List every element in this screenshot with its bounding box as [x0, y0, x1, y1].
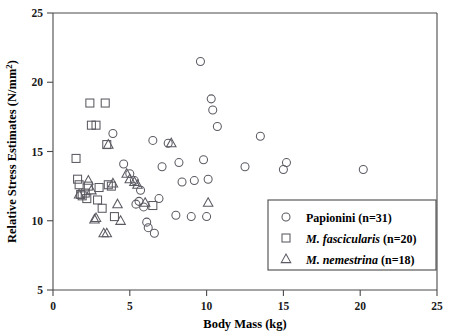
data-point-circle [203, 213, 211, 221]
data-point-square [86, 99, 94, 107]
data-point-circle [140, 203, 148, 211]
data-point-circle [158, 163, 166, 171]
data-point-circle [359, 166, 367, 174]
data-point-circle [207, 95, 215, 103]
data-point-circle [178, 178, 186, 186]
data-point-circle [109, 129, 117, 137]
data-point-square [110, 213, 118, 221]
data-point-circle [137, 186, 145, 194]
y-axis-title: Relative Stress Estimates (N/mm2) [4, 60, 19, 243]
x-tick-label: 15 [278, 300, 290, 312]
x-tick-label: 25 [431, 300, 443, 312]
legend-label: Papionini (n=31) [306, 211, 392, 225]
data-point-circle [209, 106, 217, 114]
legend-label: M. nemestrina (n=18) [305, 253, 415, 267]
data-point-triangle [203, 198, 213, 207]
data-point-triangle [116, 216, 126, 225]
data-point-circle [200, 156, 208, 164]
data-point-circle [120, 160, 128, 168]
x-tick-label: 0 [50, 300, 56, 312]
plot-canvas: 5101520250510152025Body Mass (kg)Relativ… [0, 0, 468, 336]
y-tick-label: 20 [32, 76, 44, 88]
data-point-circle [187, 213, 195, 221]
data-point-triangle [113, 199, 123, 208]
legend-label: M. fascicularis (n=20) [305, 232, 417, 246]
data-point-square [95, 184, 103, 192]
data-point-circle [175, 159, 183, 167]
data-point-square [101, 99, 109, 107]
data-point-square [94, 196, 102, 204]
data-point-circle [196, 57, 204, 65]
y-tick-label: 10 [32, 215, 44, 227]
data-point-circle [149, 136, 157, 144]
y-tick-label: 15 [32, 146, 44, 158]
scatter-plot-figure: 5101520250510152025Body Mass (kg)Relativ… [0, 0, 468, 336]
y-tick-label: 25 [32, 7, 44, 19]
data-point-triangle [108, 178, 118, 187]
data-point-circle [256, 132, 264, 140]
data-point-triangle [84, 176, 94, 185]
data-point-circle [282, 159, 290, 167]
x-tick-label: 20 [354, 300, 366, 312]
data-point-square [87, 121, 95, 129]
x-tick-label: 5 [127, 300, 133, 312]
data-point-square [92, 121, 100, 129]
data-point-circle [190, 177, 198, 185]
x-tick-label: 10 [201, 300, 213, 312]
data-point-square [72, 154, 80, 162]
data-point-circle [241, 163, 249, 171]
data-point-circle [172, 211, 180, 219]
x-axis-title: Body Mass (kg) [203, 317, 286, 331]
data-point-circle [204, 175, 212, 183]
data-point-circle [150, 229, 158, 237]
y-tick-label: 5 [37, 284, 43, 296]
data-point-square [98, 204, 106, 212]
data-point-circle [213, 123, 221, 131]
data-point-circle [143, 218, 151, 226]
